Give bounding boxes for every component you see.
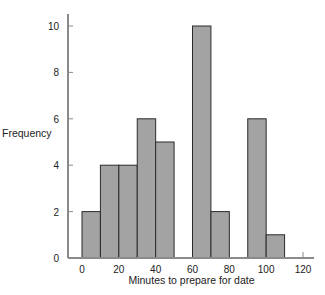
y-tick-label: 4 — [53, 160, 59, 171]
histogram-bar — [137, 119, 155, 258]
histogram-chart: 0246810 020406080100120 — [0, 0, 325, 295]
y-tick-label: 10 — [48, 21, 60, 32]
histogram-bars — [82, 26, 285, 258]
y-tick-label: 2 — [53, 207, 59, 218]
histogram-bar — [211, 212, 229, 258]
histogram-bar — [248, 119, 266, 258]
y-axis-ticks: 0246810 — [48, 21, 73, 264]
y-tick-label: 8 — [53, 67, 59, 78]
histogram-bar — [82, 212, 100, 258]
histogram-bar — [156, 142, 174, 258]
y-axis-label: Frequency — [2, 127, 52, 139]
y-tick-label: 0 — [53, 253, 59, 264]
y-tick-label: 6 — [53, 114, 59, 125]
x-axis-label: Minutes to prepare for date — [0, 274, 325, 286]
histogram-bar — [100, 165, 118, 258]
histogram-bar — [266, 235, 284, 258]
histogram-bar — [193, 26, 211, 258]
histogram-bar — [119, 165, 137, 258]
